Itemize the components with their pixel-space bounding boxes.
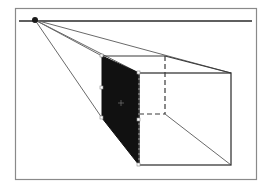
handle (100, 54, 103, 57)
handle (137, 71, 140, 74)
vanishing-point (32, 17, 38, 23)
handle (137, 118, 140, 121)
perspective-diagram (0, 0, 271, 189)
handle (100, 116, 103, 119)
handle (137, 163, 140, 166)
handle (100, 86, 103, 89)
